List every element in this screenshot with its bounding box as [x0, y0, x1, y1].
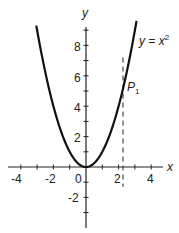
y-tick-label: 4 — [74, 101, 81, 115]
curve-label-exponent: 2 — [165, 33, 170, 42]
point-label-subscript: 1 — [135, 87, 140, 96]
point-label-p1: P1 — [127, 80, 140, 96]
x-tick-label: -4 — [11, 172, 22, 186]
y-tick-label: -2 — [68, 191, 79, 205]
y-tick-label: 2 — [74, 131, 81, 145]
y-tick-label: 6 — [74, 71, 81, 85]
curve-label-main: y = x — [138, 34, 166, 48]
y-axis-label: y — [81, 6, 89, 20]
x-tick-label: 2 — [114, 172, 121, 186]
curve-label: y = x2 — [138, 33, 170, 48]
point-label-main: P — [127, 80, 135, 94]
parabola-chart: -4 -2 0 2 4 8 6 4 2 -2 x y y = x2 P1 — [0, 0, 179, 233]
x-tick-label: 4 — [147, 172, 154, 186]
x-tick-label: -2 — [45, 172, 56, 186]
y-tick-label: 8 — [74, 40, 81, 54]
x-tick-label: 0 — [75, 172, 82, 186]
x-axis-label: x — [166, 160, 174, 174]
